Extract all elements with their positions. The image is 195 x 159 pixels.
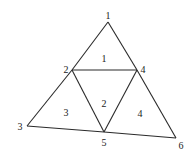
node-label-4: 4 [141, 64, 146, 75]
node-label-3: 3 [18, 121, 23, 132]
element-label-2: 2 [102, 98, 107, 109]
edge-1-4 [108, 22, 137, 70]
node-label-6: 6 [179, 140, 184, 151]
element-labels: 1234 [64, 53, 143, 119]
element-label-3: 3 [64, 107, 69, 118]
element-label-4: 4 [138, 108, 143, 119]
edge-4-6 [137, 70, 176, 138]
element-label-1: 1 [102, 53, 107, 64]
node-label-5: 5 [102, 137, 107, 148]
mesh-edges [27, 22, 176, 138]
edge-3-5 [27, 126, 104, 132]
edge-5-6 [104, 132, 176, 138]
triangular-mesh-diagram: 123456 1234 [0, 0, 195, 159]
edge-2-5 [72, 70, 104, 132]
node-label-1: 1 [106, 10, 111, 21]
node-label-2: 2 [64, 64, 69, 75]
edge-4-5 [104, 70, 137, 132]
